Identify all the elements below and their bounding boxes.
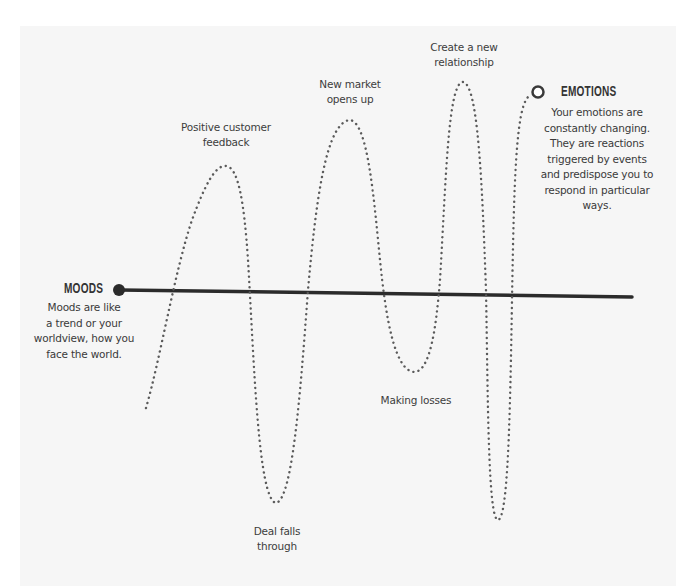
- emotions-circle-icon: [533, 87, 544, 98]
- emotions-description: Your emotions are constantly changing. T…: [530, 105, 664, 214]
- event-label-new-market-opens-up: New market opens up: [305, 77, 395, 107]
- event-label-create-a-new-relationship: Create a new relationship: [416, 40, 512, 70]
- event-label-positive-customer-feedback: Positive customer feedback: [166, 120, 286, 150]
- moods-description: Moods are like a trend or your worldview…: [28, 300, 140, 362]
- event-label-deal-falls-through: Deal falls through: [240, 524, 314, 554]
- mood-line: [120, 290, 632, 297]
- moods-title: MOODS: [64, 280, 103, 296]
- emotions-title: EMOTIONS: [561, 83, 616, 99]
- moods-dot-icon: [113, 284, 125, 296]
- event-label-making-losses: Making losses: [364, 393, 468, 408]
